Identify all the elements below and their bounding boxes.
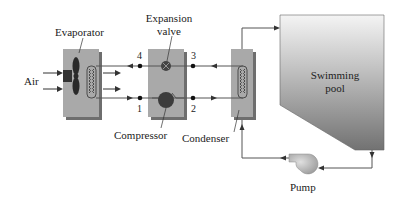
state-point-1 bbox=[138, 96, 143, 101]
pump-label: Pump bbox=[290, 181, 316, 193]
condenser-label: Condenser bbox=[182, 132, 229, 144]
state-point-3-label: 3 bbox=[191, 51, 196, 61]
air-label: Air bbox=[24, 75, 39, 87]
pool-label-line2: pool bbox=[305, 82, 365, 94]
compressor-label: Compressor bbox=[114, 129, 167, 141]
evaporator-label: Evaporator bbox=[55, 26, 104, 38]
evaporator-unit bbox=[63, 49, 102, 120]
fan-icon bbox=[73, 57, 80, 95]
state-point-1-label: 1 bbox=[137, 104, 142, 114]
air-outlet-arrows bbox=[103, 73, 118, 89]
condenser-unit bbox=[231, 49, 256, 120]
state-point-2 bbox=[191, 96, 196, 101]
state-point-3 bbox=[191, 64, 196, 69]
expansion-valve-label-line1: Expansion bbox=[140, 12, 198, 24]
state-point-4-label: 4 bbox=[137, 51, 142, 61]
pump-icon bbox=[289, 154, 318, 174]
pool-label-line1: Swimming bbox=[305, 69, 365, 81]
state-point-2-label: 2 bbox=[191, 104, 196, 114]
state-point-4 bbox=[138, 64, 143, 69]
expansion-valve-icon bbox=[161, 61, 171, 71]
fan-motor-icon bbox=[63, 70, 72, 82]
air-inlet-arrows bbox=[43, 73, 60, 89]
expansion-valve-label-line2: valve bbox=[140, 25, 198, 37]
